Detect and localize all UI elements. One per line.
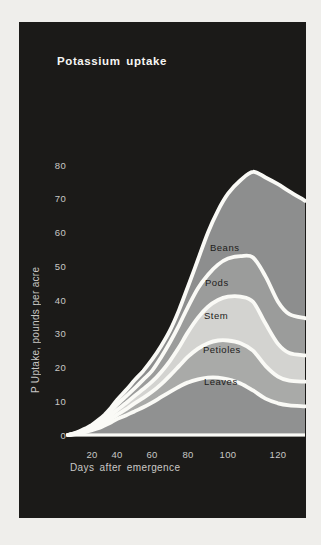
y-axis-title: P Uptake, pounds per acre [27,218,43,442]
chart-panel: Potassium uptake 01020304050607080204060… [19,22,306,518]
x-tick-label: 20 [86,449,97,460]
y-tick-label: 0 [60,430,66,441]
x-axis-line [68,433,305,436]
y-tick-label: 40 [55,295,66,306]
series-label-pods: Pods [205,277,229,288]
x-tick-label: 80 [182,449,193,460]
y-tick-label: 30 [55,328,66,339]
y-tick-label: 60 [55,227,66,238]
stacked-area-chart: 0102030405060708020406080100120 [19,22,306,518]
series-label-petioles: Petioles [203,344,241,355]
series-label-leaves: Leaves [204,376,238,387]
x-axis-title: Days after emergence [70,462,180,473]
y-tick-label: 20 [55,362,66,373]
y-tick-label: 10 [55,396,66,407]
y-tick-label: 70 [55,193,66,204]
page-background: Potassium uptake 01020304050607080204060… [0,0,321,545]
y-tick-label: 50 [55,261,66,272]
series-label-stem: Stem [204,310,228,321]
y-tick-label: 80 [55,160,66,171]
x-tick-label: 120 [270,449,287,460]
x-tick-label: 40 [111,449,122,460]
x-tick-label: 100 [220,449,237,460]
x-tick-label: 60 [146,449,157,460]
series-label-beans: Beans [210,242,239,253]
